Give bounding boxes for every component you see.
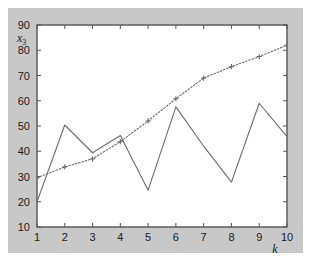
y-tick-label: 20 — [18, 196, 30, 208]
y-tick-label: 70 — [18, 70, 30, 82]
x-tick-label: 6 — [173, 231, 179, 243]
x-tick-label: 10 — [281, 231, 293, 243]
y-tick-label: 30 — [18, 171, 30, 183]
x-tick-label: 7 — [201, 231, 207, 243]
x-tick-label: 1 — [34, 231, 40, 243]
y-tick-label: 90 — [18, 19, 30, 31]
x-tick-label: 8 — [228, 231, 234, 243]
x-tick-label: 2 — [62, 231, 68, 243]
x-axis-title: k — [272, 242, 278, 256]
plot-area — [37, 25, 287, 227]
figure-container: 10203040506070809012345678910x3k — [0, 0, 311, 261]
y-axis-title: x3 — [16, 31, 26, 47]
line-chart: 10203040506070809012345678910x3k — [0, 0, 311, 261]
y-tick-label: 50 — [18, 120, 30, 132]
x-tick-label: 4 — [117, 231, 123, 243]
axes-frame — [37, 25, 287, 227]
y-tick-label: 10 — [18, 221, 30, 233]
y-axis-title-subscript: 3 — [22, 38, 26, 47]
x-tick-label: 9 — [256, 231, 262, 243]
y-tick-label: 60 — [18, 95, 30, 107]
x-tick-label: 3 — [89, 231, 95, 243]
y-tick-label: 40 — [18, 145, 30, 157]
x-tick-label: 5 — [145, 231, 151, 243]
